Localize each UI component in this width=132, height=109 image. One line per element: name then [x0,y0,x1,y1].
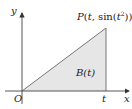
diagram-canvas: y x O t P(t, sin(t2)) B(t) [0,0,132,109]
y-axis-label: y [10,5,17,16]
region-label: B(t) [75,67,95,78]
origin-label: O [14,93,22,104]
sin-text: , sin( [92,11,117,22]
paren-close: )) [125,11,132,22]
point-p-label: P(t, sin(t2)) [76,10,132,22]
x-axis-label: x [124,93,130,104]
t-tick-label: t [102,93,107,104]
